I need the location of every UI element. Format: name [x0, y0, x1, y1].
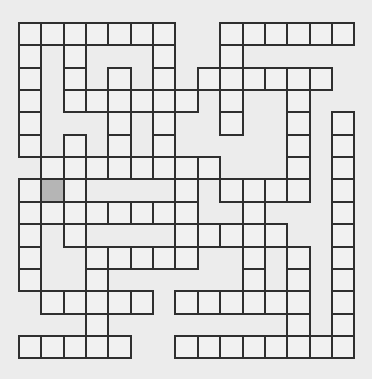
- crossword-cell[interactable]: [63, 67, 87, 91]
- crossword-cell[interactable]: [40, 156, 65, 180]
- crossword-cell[interactable]: [152, 22, 176, 46]
- crossword-cell[interactable]: [152, 89, 176, 113]
- crossword-cell[interactable]: [18, 201, 42, 225]
- crossword-cell[interactable]: [107, 335, 132, 359]
- crossword-cell[interactable]: [18, 335, 42, 359]
- crossword-cell[interactable]: [286, 335, 311, 359]
- crossword-cell[interactable]: [264, 22, 288, 46]
- crossword-cell[interactable]: [152, 156, 176, 180]
- crossword-cell[interactable]: [286, 134, 311, 158]
- crossword-cell[interactable]: [130, 22, 154, 46]
- crossword-cell[interactable]: [219, 335, 244, 359]
- crossword-cell[interactable]: [331, 246, 355, 270]
- crossword-cell[interactable]: [197, 290, 221, 315]
- crossword-cell[interactable]: [219, 223, 244, 248]
- crossword-cell[interactable]: [63, 44, 87, 69]
- crossword-cell[interactable]: [286, 246, 311, 270]
- crossword-cell[interactable]: [197, 156, 221, 180]
- crossword-cell[interactable]: [152, 246, 176, 270]
- crossword-cell[interactable]: [331, 268, 355, 292]
- crossword-cell[interactable]: [242, 335, 266, 359]
- crossword-cell[interactable]: [219, 290, 244, 315]
- crossword-cell[interactable]: [264, 290, 288, 315]
- crossword-cell[interactable]: [174, 201, 199, 225]
- crossword-cell[interactable]: [219, 111, 244, 136]
- crossword-cell[interactable]: [219, 44, 244, 69]
- crossword-cell[interactable]: [152, 111, 176, 136]
- crossword-cell[interactable]: [85, 246, 109, 270]
- crossword-cell[interactable]: [286, 111, 311, 136]
- crossword-cell[interactable]: [331, 201, 355, 225]
- crossword-cell[interactable]: [242, 268, 266, 292]
- crossword-cell[interactable]: [331, 134, 355, 158]
- crossword-cell[interactable]: [85, 89, 109, 113]
- crossword-cell[interactable]: [107, 22, 132, 46]
- crossword-cell[interactable]: [197, 223, 221, 248]
- crossword-cell[interactable]: [219, 67, 244, 91]
- crossword-cell[interactable]: [63, 223, 87, 248]
- crossword-cell[interactable]: [63, 290, 87, 315]
- crossword-cell[interactable]: [85, 290, 109, 315]
- crossword-cell[interactable]: [18, 111, 42, 136]
- crossword-cell[interactable]: [63, 201, 87, 225]
- crossword-cell[interactable]: [174, 246, 199, 270]
- crossword-cell[interactable]: [63, 89, 87, 113]
- crossword-cell[interactable]: [264, 67, 288, 91]
- crossword-cell[interactable]: [85, 268, 109, 292]
- crossword-cell[interactable]: [107, 246, 132, 270]
- crossword-cell[interactable]: [63, 178, 87, 203]
- crossword-cell[interactable]: [130, 290, 154, 315]
- crossword-cell[interactable]: [18, 67, 42, 91]
- crossword-cell[interactable]: [107, 156, 132, 180]
- crossword-cell[interactable]: [107, 89, 132, 113]
- crossword-cell[interactable]: [130, 246, 154, 270]
- crossword-cell[interactable]: [85, 156, 109, 180]
- crossword-cell[interactable]: [63, 22, 87, 46]
- crossword-cell[interactable]: [219, 178, 244, 203]
- crossword-cell[interactable]: [309, 335, 333, 359]
- crossword-cell[interactable]: [286, 290, 311, 315]
- crossword-cell[interactable]: [242, 178, 266, 203]
- crossword-cell[interactable]: [40, 201, 65, 225]
- crossword-cell[interactable]: [130, 156, 154, 180]
- crossword-cell[interactable]: [286, 313, 311, 337]
- crossword-cell[interactable]: [242, 22, 266, 46]
- crossword-cell[interactable]: [174, 156, 199, 180]
- crossword-cell[interactable]: [286, 67, 311, 91]
- crossword-cell[interactable]: [309, 22, 333, 46]
- crossword-cell[interactable]: [174, 290, 199, 315]
- crossword-cell[interactable]: [174, 335, 199, 359]
- crossword-cell[interactable]: [152, 67, 176, 91]
- crossword-cell[interactable]: [286, 89, 311, 113]
- crossword-cell[interactable]: [152, 201, 176, 225]
- crossword-cell[interactable]: [331, 156, 355, 180]
- crossword-cell[interactable]: [18, 22, 42, 46]
- crossword-cell[interactable]: [286, 156, 311, 180]
- crossword-cell[interactable]: [286, 178, 311, 203]
- crossword-cell[interactable]: [63, 335, 87, 359]
- crossword-cell[interactable]: [18, 44, 42, 69]
- crossword-cell[interactable]: [18, 134, 42, 158]
- crossword-cell[interactable]: [264, 223, 288, 248]
- crossword-cell[interactable]: [242, 201, 266, 225]
- crossword-cell[interactable]: [309, 67, 333, 91]
- crossword-cell[interactable]: [331, 111, 355, 136]
- crossword-cell[interactable]: [174, 223, 199, 248]
- crossword-cell[interactable]: [219, 22, 244, 46]
- crossword-cell[interactable]: [242, 223, 266, 248]
- crossword-cell[interactable]: [174, 178, 199, 203]
- crossword-cell[interactable]: [286, 22, 311, 46]
- crossword-cell[interactable]: [85, 201, 109, 225]
- crossword-cell[interactable]: [40, 22, 65, 46]
- selected-cell[interactable]: [40, 178, 65, 203]
- crossword-cell[interactable]: [242, 290, 266, 315]
- crossword-cell[interactable]: [107, 67, 132, 91]
- crossword-cell[interactable]: [152, 44, 176, 69]
- crossword-cell[interactable]: [18, 246, 42, 270]
- crossword-cell[interactable]: [219, 89, 244, 113]
- crossword-cell[interactable]: [197, 335, 221, 359]
- crossword-cell[interactable]: [18, 178, 42, 203]
- crossword-cell[interactable]: [63, 156, 87, 180]
- crossword-cell[interactable]: [63, 134, 87, 158]
- crossword-cell[interactable]: [40, 335, 65, 359]
